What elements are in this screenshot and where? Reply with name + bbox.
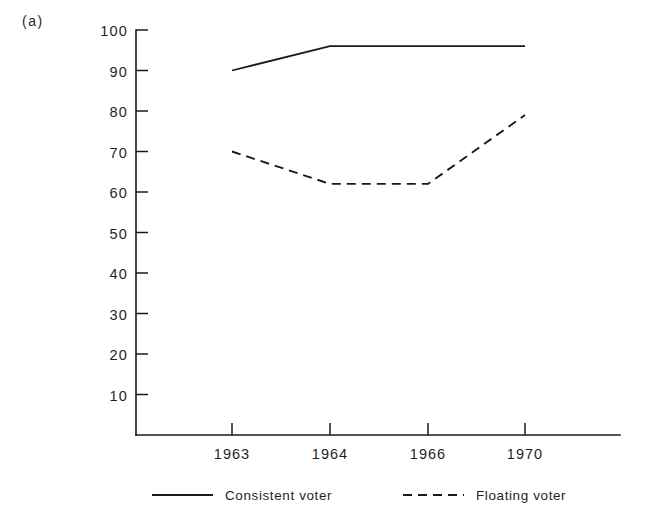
y-axis-ticks	[136, 30, 148, 395]
line-chart: 100 90 80 70 60 50 40 30 20 10 1963 1964…	[0, 0, 656, 523]
legend-label-consistent-voter: Consistent voter	[225, 488, 332, 503]
y-tick-label-30: 30	[109, 307, 128, 323]
series-line-floating-voter	[232, 115, 525, 184]
x-axis-tick-labels: 1963 1964 1966 1970	[214, 446, 543, 462]
legend-label-floating-voter: Floating voter	[476, 488, 566, 503]
y-axis-tick-labels: 100 90 80 70 60 50 40 30 20 10	[100, 23, 128, 404]
x-tick-label-1970: 1970	[507, 446, 543, 462]
x-tick-label-1963: 1963	[214, 446, 250, 462]
y-tick-label-10: 10	[109, 388, 128, 404]
y-tick-label-90: 90	[109, 64, 128, 80]
y-tick-label-60: 60	[109, 185, 128, 201]
x-tick-label-1964: 1964	[312, 446, 348, 462]
chart-legend: Consistent voter Floating voter	[152, 488, 566, 503]
series-line-consistent-voter	[232, 46, 525, 70]
y-tick-label-20: 20	[109, 347, 128, 363]
x-axis-ticks	[232, 423, 525, 435]
y-tick-label-50: 50	[109, 226, 128, 242]
figure-container: (a) 100 90 80 70 60 50 40 30	[0, 0, 656, 523]
legend-entry-consistent-voter: Consistent voter	[152, 488, 332, 503]
y-tick-label-70: 70	[109, 145, 128, 161]
x-tick-label-1966: 1966	[410, 446, 446, 462]
y-tick-label-80: 80	[109, 104, 128, 120]
legend-entry-floating-voter: Floating voter	[403, 488, 566, 503]
y-tick-label-100: 100	[100, 23, 128, 39]
y-tick-label-40: 40	[109, 266, 128, 282]
